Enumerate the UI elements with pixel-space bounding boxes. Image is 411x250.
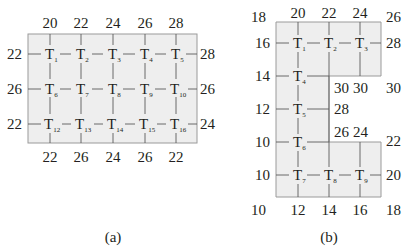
figure-b: 18 20 22 24 26 16 14 12 10 10 10 12 14 1… (251, 5, 402, 246)
grid-b-left-labels: 16 14 12 10 10 (255, 35, 271, 183)
top-label: 26 (138, 15, 154, 31)
notch-label: 30 (386, 80, 401, 96)
top-label: 24 (106, 15, 122, 31)
left-label: 14 (255, 68, 271, 84)
right-label: 20 (386, 167, 401, 183)
left-label: 22 (7, 116, 22, 132)
bottom-label: 26 (138, 149, 154, 165)
top-label: 20 (291, 5, 306, 21)
top-label: 22 (322, 5, 337, 21)
top-label: 28 (169, 15, 184, 31)
corner-label: 10 (251, 202, 266, 218)
left-label: 22 (7, 46, 22, 62)
bottom-label: 14 (322, 202, 338, 218)
left-label: 12 (255, 101, 270, 117)
finite-difference-diagrams: 20 22 24 26 28 22 26 24 26 22 22 26 22 2… (0, 0, 411, 250)
corner-label: 18 (386, 202, 401, 218)
right-label: 24 (200, 116, 216, 132)
left-label: 26 (7, 81, 23, 97)
left-label: 16 (255, 35, 271, 51)
bottom-label: 24 (106, 149, 122, 165)
top-label: 24 (353, 5, 369, 21)
notch-label: 26 (334, 124, 350, 140)
bottom-label: 22 (43, 149, 58, 165)
notch-label: 30 (353, 80, 368, 96)
right-label: 28 (386, 35, 401, 51)
corner-label: 18 (251, 9, 266, 25)
caption-a: (a) (105, 229, 122, 246)
grid-a-bottom-labels: 22 26 24 26 22 (43, 149, 184, 165)
bottom-label: 22 (169, 149, 184, 165)
left-label: 10 (255, 167, 270, 183)
bottom-label: 16 (353, 202, 369, 218)
left-label: 10 (255, 134, 270, 150)
right-label: 22 (386, 133, 401, 149)
bottom-label: 26 (74, 149, 90, 165)
bottom-label: 12 (291, 202, 306, 218)
caption-b: (b) (320, 229, 338, 246)
notch-label: 28 (334, 101, 349, 117)
right-label: 28 (200, 46, 215, 62)
corner-label: 26 (386, 9, 402, 25)
grid-a-right-labels: 28 26 24 (200, 46, 216, 132)
grid-a-left-labels: 22 26 22 (7, 46, 23, 132)
grid-b-bottom-labels: 10 12 14 16 18 (251, 202, 401, 218)
notch-label: 24 (353, 124, 369, 140)
grid-a-top-labels: 20 22 24 26 28 (43, 15, 184, 31)
top-label: 22 (74, 15, 89, 31)
top-label: 20 (43, 15, 58, 31)
right-label: 26 (200, 81, 216, 97)
figure-a: 20 22 24 26 28 22 26 24 26 22 22 26 22 2… (7, 15, 216, 246)
notch-label: 30 (334, 80, 349, 96)
